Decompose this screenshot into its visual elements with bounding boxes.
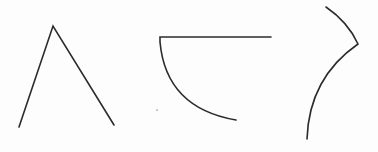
stray-dot xyxy=(156,109,158,111)
quarter-arc-shape xyxy=(160,37,271,120)
diagram-canvas xyxy=(0,0,378,152)
diagram-svg xyxy=(0,0,378,152)
hook-curve-shape xyxy=(307,7,358,139)
peak-shape xyxy=(19,26,114,127)
